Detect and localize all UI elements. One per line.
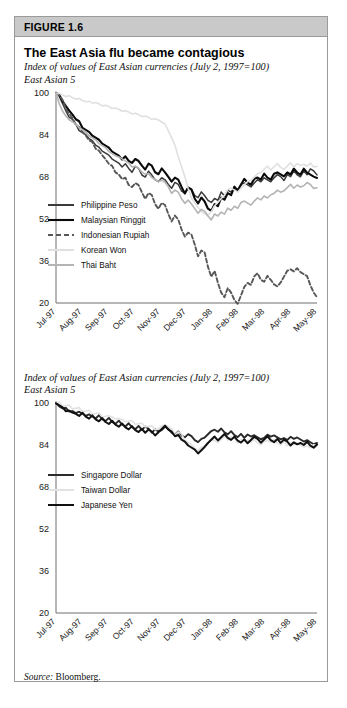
x-tick-label: Apr-98 [267,306,292,331]
figure-header-band: FIGURE 1.6 [15,17,327,37]
panel2-subtitle-line1: Index of values of East Asian currencies… [24,372,269,383]
y-tick-label: 52 [39,524,49,534]
legend-label: Indonesian Rupiah [81,231,150,240]
x-tick-label: Dec-97 [161,616,188,643]
legend-label: Japanese Yen [81,501,133,510]
x-tick-label: Feb-98 [214,306,240,332]
x-tick-label: Aug-97 [57,616,84,643]
y-tick-label: 52 [39,214,49,224]
x-tick-label: Oct-97 [110,616,135,641]
chart-panel-top: Index of values of East Asian currencies… [24,61,318,372]
series-line [56,93,317,304]
panel1-subtitle: Index of values of East Asian currencies… [24,61,318,87]
y-tick-label: 84 [39,440,49,450]
figure-container: FIGURE 1.6 The East Asia flu became cont… [14,16,328,682]
figure-body: The East Asia flu became contagious Inde… [15,46,327,682]
y-tick-label: 100 [34,88,49,98]
x-tick-label: Sep-97 [83,306,110,333]
x-tick-label: Jan-98 [188,306,214,332]
series-line [56,402,317,444]
y-tick-label: 20 [39,608,49,618]
y-tick-label: 20 [39,298,49,308]
x-tick-label: Mar-98 [240,616,266,642]
x-tick-label: Nov-97 [135,616,162,643]
x-tick-label: Apr-98 [267,616,292,641]
east-asian-5-line-chart: 2036526884100Jul-97Aug-97Sep-97Oct-97Nov… [24,87,320,372]
y-tick-label: 68 [39,482,49,492]
y-tick-label: 100 [34,398,49,408]
x-tick-label: Oct-97 [110,306,135,331]
panel1-subtitle-line1: Index of values of East Asian currencies… [24,61,269,72]
y-tick-label: 36 [39,256,49,266]
chart-axes [56,93,317,303]
source-note: Source: Bloomberg. [24,672,318,682]
chart-panel-bottom: Index of values of East Asian currencies… [24,372,318,673]
x-tick-label: Jan-98 [188,616,214,642]
y-tick-label: 68 [39,172,49,182]
x-tick-label: Mar-98 [240,306,266,332]
y-tick-label: 84 [39,130,49,140]
panel2-subtitle-line2: East Asian 5 [24,384,318,397]
series-line [56,93,317,215]
legend-label: Malaysian Ringgit [81,216,146,225]
x-tick-label: May-98 [291,306,318,333]
y-tick-label: 36 [39,566,49,576]
legend-label: Taiwan Dollar [81,486,130,495]
x-tick-label: Feb-98 [214,616,240,642]
x-tick-label: Dec-97 [161,306,188,333]
legend-label: Singapore Dollar [81,471,142,480]
x-tick-label: Jul-97 [34,616,58,640]
source-label: Source: [24,672,53,682]
x-tick-label: Nov-97 [135,306,162,333]
panel2-subtitle: Index of values of East Asian currencies… [24,372,318,398]
x-tick-label: Aug-97 [57,306,84,333]
panel1-subtitle-line2: East Asian 5 [24,74,318,87]
x-tick-label: May-98 [291,616,318,643]
series-line [56,403,317,453]
east-asian-3-line-chart: 2036526884100Jul-97Aug-97Sep-97Oct-97Nov… [24,397,320,672]
x-tick-label: Jul-97 [34,306,58,330]
legend-label: Korean Won [81,246,127,255]
legend-label: Thai Baht [81,261,117,270]
x-tick-label: Sep-97 [83,616,110,643]
series-line [56,92,317,210]
figure-number: FIGURE 1.6 [24,21,83,33]
figure-title: The East Asia flu became contagious [24,46,318,61]
source-value: Bloomberg. [56,672,101,682]
legend-label: Philippine Peso [81,201,138,210]
